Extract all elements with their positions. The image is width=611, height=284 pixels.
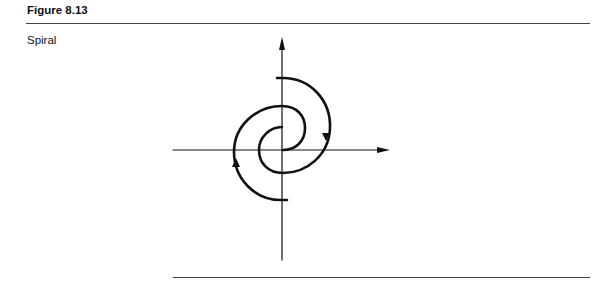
spiral-arm-2 xyxy=(234,106,305,200)
bottom-rule xyxy=(173,277,590,278)
vertical-axis-arrowhead xyxy=(279,37,285,50)
spiral-diagram xyxy=(0,0,611,284)
spiral-arm-1 xyxy=(259,78,330,173)
horizontal-axis-arrowhead xyxy=(377,147,390,153)
